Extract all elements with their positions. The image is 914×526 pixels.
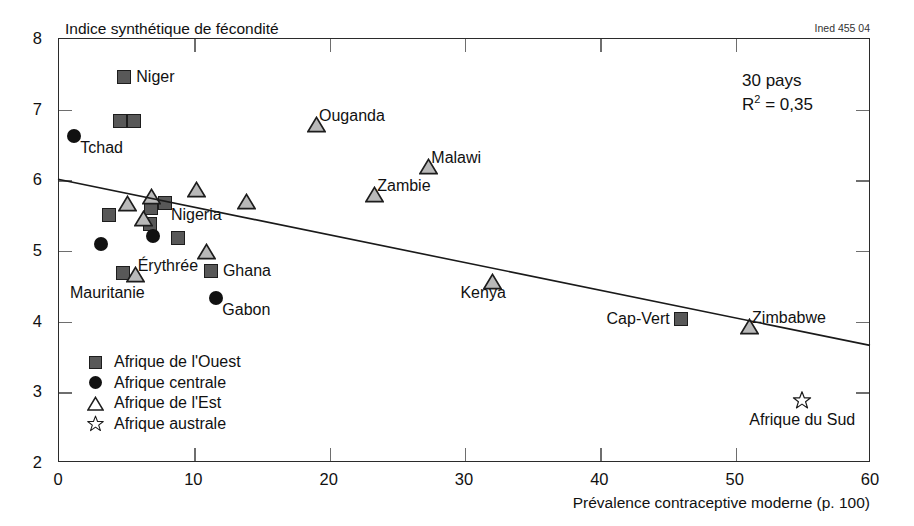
- point-label-mauritanie: Mauritanie: [70, 285, 145, 301]
- x-tick-top: [194, 39, 195, 52]
- x-tick-label: 10: [163, 471, 223, 488]
- x-tick-top: [465, 39, 466, 52]
- point-label-zambie: Zambie: [377, 178, 430, 194]
- y-tick-left: [59, 180, 72, 181]
- y-tick-label: 7: [2, 101, 42, 118]
- x-tick-label: 0: [28, 471, 88, 488]
- data-point[interactable]: [171, 231, 185, 245]
- x-tick-label: 20: [299, 471, 359, 488]
- legend-item-label: Afrique centrale: [114, 375, 226, 391]
- legend-triangle-icon: [84, 396, 106, 411]
- legend-star-icon: [84, 415, 106, 432]
- x-axis-title: Prévalence contraceptive moderne (p. 100…: [573, 494, 870, 512]
- legend-item-triangle[interactable]: Afrique de l'Est: [84, 393, 241, 414]
- y-tick-left: [59, 251, 72, 252]
- data-point-tchad[interactable]: [67, 129, 81, 143]
- point-label-afrique-du-sud: Afrique du Sud: [749, 412, 855, 428]
- legend-circle-icon: [84, 376, 106, 389]
- point-label-nigeria: Nigeria: [171, 207, 222, 223]
- y-tick-label: 8: [2, 30, 42, 47]
- data-point[interactable]: [146, 229, 160, 243]
- data-point[interactable]: [102, 208, 116, 222]
- point-label-tchad: Tchad: [80, 140, 123, 156]
- legend-item-label: Afrique de l'Est: [114, 395, 221, 411]
- y-tick-label: 3: [2, 383, 42, 400]
- point-label-ouganda: Ouganda: [319, 108, 385, 124]
- x-tick-top: [736, 39, 737, 52]
- data-point-afrique-du-sud[interactable]: [793, 390, 812, 409]
- point-label--rythr-e: Érythrée: [138, 258, 198, 274]
- legend-item-star[interactable]: Afrique australe: [84, 414, 241, 435]
- y-tick-label: 5: [2, 242, 42, 259]
- legend-item-label: Afrique de l'Ouest: [114, 354, 241, 370]
- data-point[interactable]: [127, 114, 141, 128]
- y-tick-right: [856, 392, 869, 393]
- x-tick-top: [600, 39, 601, 52]
- legend: Afrique de l'OuestAfrique centraleAfriqu…: [84, 352, 241, 434]
- y-tick-label: 6: [2, 171, 42, 188]
- point-label-gabon: Gabon: [222, 302, 270, 318]
- y-tick-right: [856, 110, 869, 111]
- x-tick-label: 30: [434, 471, 494, 488]
- x-tick-label: 40: [569, 471, 629, 488]
- x-tick-bottom: [736, 448, 737, 461]
- legend-item-square[interactable]: Afrique de l'Ouest: [84, 352, 241, 373]
- x-tick-bottom: [465, 448, 466, 461]
- data-point[interactable]: [94, 237, 108, 251]
- y-tick-right: [856, 180, 869, 181]
- x-tick-top: [330, 39, 331, 52]
- y-tick-right: [856, 251, 869, 252]
- point-label-ghana: Ghana: [223, 263, 271, 279]
- data-point[interactable]: [113, 114, 127, 128]
- data-point-gabon[interactable]: [209, 291, 223, 305]
- point-label-malawi: Malawi: [431, 150, 481, 166]
- y-tick-left: [59, 392, 72, 393]
- x-tick-bottom: [600, 448, 601, 461]
- data-point-niger[interactable]: [117, 70, 131, 84]
- x-tick-label: 60: [840, 471, 900, 488]
- y-axis-title: Indice synthétique de fécondité: [65, 20, 279, 38]
- legend-square-icon: [84, 356, 106, 369]
- y-tick-label: 4: [2, 313, 42, 330]
- legend-item-label: Afrique australe: [114, 416, 226, 432]
- point-label-zimbabwe: Zimbabwe: [752, 310, 826, 326]
- point-label-niger: Niger: [136, 69, 174, 85]
- point-label-kenya: Kenya: [460, 285, 505, 301]
- x-tick-bottom: [330, 448, 331, 461]
- data-point-ghana[interactable]: [204, 264, 218, 278]
- y-tick-right: [856, 322, 869, 323]
- source-code-label: Ined 455 04: [815, 22, 870, 34]
- y-tick-label: 2: [2, 454, 42, 471]
- legend-item-circle[interactable]: Afrique centrale: [84, 373, 241, 394]
- chart-figure: Indice synthétique de fécondité Ined 455…: [0, 0, 914, 526]
- x-tick-label: 50: [705, 471, 765, 488]
- data-point-cap-vert[interactable]: [674, 312, 688, 326]
- y-tick-left: [59, 110, 72, 111]
- point-label-cap-vert: Cap-Vert: [607, 311, 670, 327]
- y-tick-left: [59, 322, 72, 323]
- x-tick-bottom: [194, 448, 195, 461]
